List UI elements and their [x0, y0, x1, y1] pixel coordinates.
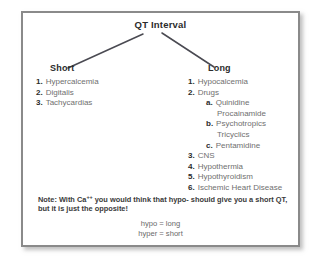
list-item: 1. Hypercalcemia [36, 77, 146, 88]
list-item: 2. Digitalis [36, 88, 146, 99]
sub-list-item-label: Psychotropics [216, 119, 266, 130]
list-marker: 2. [36, 88, 43, 99]
drugs-sublist: a. Quinidine Procainamide b. Psychotropi… [206, 98, 310, 151]
list-item: 6. Ischemic Heart Disease [188, 183, 310, 194]
branch-heading-short: Short [36, 63, 146, 73]
list-item: 4. Hypothermia [188, 162, 310, 173]
list-marker: 3. [36, 98, 43, 109]
list-item-label: Hypothermia [198, 162, 243, 173]
list-item-label: Hypercalcemia [46, 77, 99, 88]
list-item: 5. Hypothyroidism [188, 172, 310, 183]
list-item: 1. Hypocalcemia [188, 77, 310, 88]
list-marker: 6. [188, 183, 195, 194]
list-marker: 1. [188, 77, 195, 88]
sub-list-marker: a. [206, 98, 213, 109]
list-item-label: Digitalis [46, 88, 74, 99]
list-marker: 2. [188, 88, 195, 99]
branch-short: Short 1. Hypercalcemia 2. Digitalis 3. T… [36, 63, 146, 109]
qt-interval-figure: QT Interval Short 1. Hypercalcemia 2. Di… [0, 0, 321, 264]
sub-list-item: b. Psychotropics Tricyclics [206, 119, 310, 140]
list-item-label: Drugs [198, 88, 219, 99]
note-prefix: Note: With Ca [38, 195, 86, 204]
list-item-label: Ischemic Heart Disease [198, 183, 282, 194]
sub-list-item-label: Pentamidine [216, 141, 260, 152]
mnemonic-equations: hypo = long hyper = short [0, 219, 321, 239]
sub-list-item-row: b. Psychotropics [206, 119, 310, 130]
sub-list-item: a. Quinidine Procainamide [206, 98, 310, 119]
figure-note: Note: With Ca++ you would think that hyp… [38, 195, 288, 213]
sub-list-item: c. Pentamidine [206, 141, 310, 152]
list-item: 3. CNS [188, 151, 310, 162]
sub-list-item-row: a. Quinidine [206, 98, 310, 109]
sub-list-marker: c. [206, 141, 213, 152]
list-item-label: Hypocalcemia [198, 77, 248, 88]
list-item: 3. Tachycardias [36, 98, 146, 109]
sub-list-item-continuation: Procainamide [206, 109, 310, 120]
list-item-header: 2. Drugs [188, 88, 310, 99]
list-marker: 5. [188, 172, 195, 183]
page-title: QT Interval [0, 19, 321, 30]
branch-heading-long: Long [188, 63, 310, 73]
list-marker: 3. [188, 151, 195, 162]
equation-hypo: hypo = long [0, 219, 321, 229]
list-item-label: Hypothyroidism [198, 172, 253, 183]
list-item-label: Tachycardias [46, 98, 93, 109]
branch-long: Long 1. Hypocalcemia 2. Drugs a. Quinidi… [188, 63, 310, 194]
short-causes-list: 1. Hypercalcemia 2. Digitalis 3. Tachyca… [36, 77, 146, 109]
list-item-label: CNS [198, 151, 215, 162]
sub-list-item-row: c. Pentamidine [206, 141, 310, 152]
list-item: 2. Drugs a. Quinidine Procainamide b. [188, 88, 310, 152]
sub-list-item-continuation: Tricyclics [206, 130, 310, 141]
long-causes-list: 1. Hypocalcemia 2. Drugs a. Quinidine Pr… [188, 77, 310, 194]
list-marker: 1. [36, 77, 43, 88]
list-marker: 4. [188, 162, 195, 173]
sub-list-marker: b. [206, 119, 213, 130]
sub-list-item-label: Quinidine [216, 98, 250, 109]
equation-hyper: hyper = short [0, 229, 321, 239]
